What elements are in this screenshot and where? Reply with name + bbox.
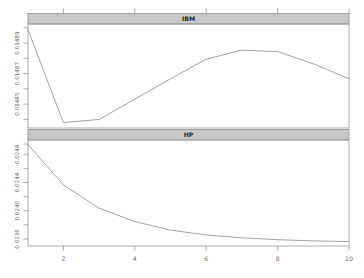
y-tick-label-ibm-0: 0.01485 <box>14 92 20 116</box>
y-tick-label-hp-0: 0.0236 <box>14 229 20 249</box>
plot-canvas: IBM 0.01485 0.01487 0.01489 <box>0 0 364 278</box>
trellis-figure: IBM 0.01485 0.01487 0.01489 <box>0 0 364 278</box>
panel-ibm: IBM 0.01485 0.01487 0.01489 <box>14 9 350 129</box>
y-axis-hp: 0.0236 0.0240 0.0244 0.0248 <box>14 144 29 249</box>
x-axis-bottom: 2 4 6 8 10 <box>61 246 353 262</box>
x-tick-label-1: 4 <box>133 255 137 262</box>
y-tick-label-ibm-2: 0.01489 <box>14 31 20 55</box>
x-tick-label-4: 10 <box>345 255 353 262</box>
top-axis-ticks <box>63 9 349 14</box>
y-tick-label-hp-1: 0.0240 <box>14 200 20 220</box>
panel-hp: HP 0.0236 0.0240 0.0244 0.0248 <box>14 130 353 263</box>
y-axis-ibm: 0.01485 0.01487 0.01489 <box>14 28 29 120</box>
x-tick-label-3: 8 <box>276 255 280 262</box>
y-tick-label-hp-2: 0.0244 <box>14 172 20 192</box>
x-tick-label-2: 6 <box>204 255 208 262</box>
y-tick-label-hp-3: 0.0248 <box>14 144 20 164</box>
y-tick-label-ibm-1: 0.01487 <box>14 62 20 86</box>
series-line-hp <box>28 144 349 241</box>
strip-label-ibm: IBM <box>182 15 195 22</box>
x-tick-label-0: 2 <box>61 255 65 262</box>
series-line-ibm <box>28 29 349 123</box>
panel-border-ibm <box>28 24 349 128</box>
strip-label-hp: HP <box>184 131 194 138</box>
